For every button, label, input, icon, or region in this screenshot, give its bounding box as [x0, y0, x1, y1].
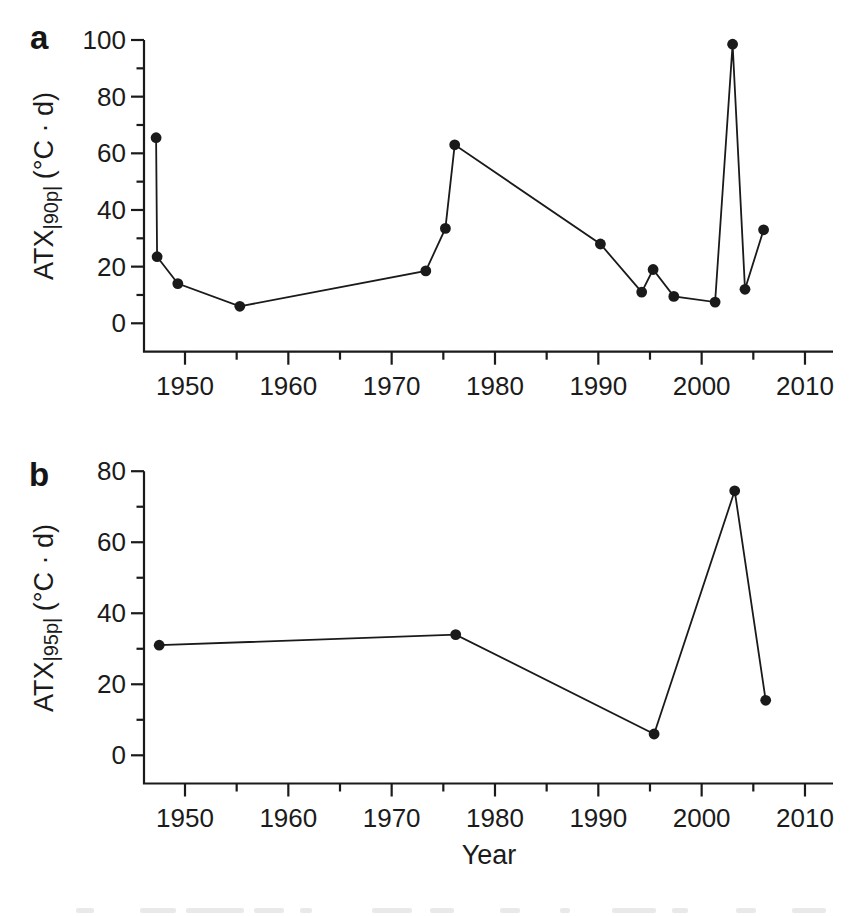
- y-title-unit: (°C · d): [29, 92, 59, 179]
- x-tick-label: 1980: [466, 803, 524, 833]
- data-point: [595, 239, 606, 250]
- axis-frame: [144, 471, 833, 783]
- data-point: [234, 301, 245, 312]
- y-tick-label: 80: [97, 456, 126, 486]
- cropped-caption-fragment: [612, 908, 656, 913]
- x-tick-label: 2000: [673, 803, 731, 833]
- y-tick-label: 60: [97, 138, 126, 168]
- data-point: [649, 729, 660, 740]
- y-tick-label: 40: [97, 195, 126, 225]
- data-point: [740, 284, 751, 295]
- data-point: [729, 485, 740, 496]
- y-title-subscript: |95p|: [40, 618, 62, 662]
- cropped-caption-fragment: [500, 908, 520, 913]
- y-title-unit: (°C · d): [29, 524, 59, 611]
- cropped-caption-fragment: [254, 908, 284, 913]
- data-point: [151, 132, 162, 143]
- data-point: [648, 264, 659, 275]
- x-tick-label: 2000: [673, 371, 731, 401]
- x-tick-label: 2010: [776, 371, 834, 401]
- cropped-caption-fragment: [560, 908, 570, 913]
- data-point: [152, 251, 163, 262]
- data-point: [636, 287, 647, 298]
- data-line: [156, 44, 764, 306]
- data-point: [440, 223, 451, 234]
- data-point: [727, 39, 738, 50]
- data-line: [159, 491, 766, 734]
- y-title-subscript: |90p|: [40, 186, 62, 230]
- x-tick-label: 1990: [569, 371, 627, 401]
- y-tick-label: 80: [97, 82, 126, 112]
- x-tick-label: 1950: [156, 371, 214, 401]
- panel-b-plot: 0204060801950196019701980199020002010: [97, 456, 834, 832]
- cropped-caption-fragment: [672, 908, 688, 913]
- data-point: [710, 297, 721, 308]
- figure: 0204060801001950196019701980199020002010…: [0, 0, 852, 916]
- panel-b-y-axis-title: ATX|95p|(°C · d): [31, 524, 60, 712]
- cropped-caption-fragment: [430, 908, 454, 913]
- y-tick-label: 0: [112, 308, 126, 338]
- chart-svg: 0204060801001950196019701980199020002010…: [0, 0, 852, 916]
- x-tick-label: 1970: [363, 371, 421, 401]
- x-tick-label: 1980: [466, 371, 524, 401]
- cropped-caption-fragment: [372, 908, 412, 913]
- panel-a-plot: 0204060801001950196019701980199020002010: [83, 25, 834, 401]
- y-tick-label: 40: [97, 598, 126, 628]
- panel-a-y-axis-title: ATX|90p|(°C · d): [31, 92, 60, 280]
- x-tick-label: 1950: [156, 803, 214, 833]
- data-point: [668, 291, 679, 302]
- y-tick-label: 100: [83, 25, 126, 55]
- data-point: [760, 695, 771, 706]
- data-point: [450, 629, 461, 640]
- x-tick-label: 2010: [776, 803, 834, 833]
- cropped-caption-fragment: [140, 908, 176, 913]
- x-tick-label: 1970: [363, 803, 421, 833]
- data-point: [172, 278, 183, 289]
- panel-a-letter: a: [30, 21, 48, 54]
- y-title-base: ATX: [29, 229, 59, 280]
- cropped-caption-fragment: [76, 908, 94, 913]
- cropped-caption-fragment: [792, 908, 826, 913]
- data-point: [758, 224, 769, 235]
- data-point: [154, 640, 165, 651]
- data-point: [420, 266, 431, 277]
- x-axis-title: Year: [462, 842, 517, 869]
- cropped-caption-fragment: [736, 908, 756, 913]
- x-tick-label: 1990: [569, 803, 627, 833]
- y-tick-label: 0: [112, 740, 126, 770]
- y-tick-label: 20: [97, 252, 126, 282]
- x-tick-label: 1960: [259, 803, 317, 833]
- y-title-base: ATX: [29, 661, 59, 712]
- y-tick-label: 20: [97, 669, 126, 699]
- cropped-caption-fragment: [300, 908, 312, 913]
- data-point: [449, 139, 460, 150]
- panel-b-letter: b: [29, 458, 49, 491]
- x-tick-label: 1960: [259, 371, 317, 401]
- cropped-caption-fragment: [186, 908, 244, 913]
- y-tick-label: 60: [97, 527, 126, 557]
